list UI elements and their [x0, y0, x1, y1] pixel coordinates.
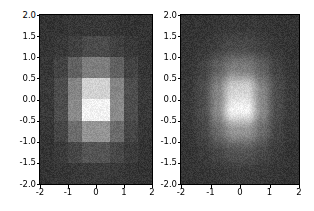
right-ytick-label: 0.0	[145, 95, 177, 104]
right-xtick-label: -2	[171, 188, 191, 197]
right-xtick-mark	[270, 185, 271, 188]
right-ytick-mark	[178, 36, 181, 37]
right-ytick-mark	[178, 57, 181, 58]
right-heatmap-image	[181, 15, 299, 184]
right-xtick-label: 2	[289, 188, 309, 197]
right-ytick-label: 1.0	[145, 53, 177, 62]
right-ytick-mark	[178, 121, 181, 122]
right-ytick-label: -0.5	[145, 116, 177, 125]
right-image-axes[interactable]	[181, 15, 299, 184]
right-ytick-label: 1.5	[145, 32, 177, 41]
right-xtick-mark	[240, 185, 241, 188]
smooth-interpolation-panel: 2.01.51.00.50.0-0.5-1.0-1.5-2.0 -2-1012	[0, 0, 314, 211]
right-ytick-mark	[178, 15, 181, 16]
right-ytick-mark	[178, 163, 181, 164]
right-ytick-mark	[178, 142, 181, 143]
right-xtick-label: 0	[230, 188, 250, 197]
figure-canvas: 2.01.51.00.50.0-0.5-1.0-1.5-2.0 -2-1012 …	[0, 0, 314, 211]
right-ytick-label: 2.0	[145, 11, 177, 20]
right-xtick-label: -1	[201, 188, 221, 197]
right-axes-spine-right	[299, 14, 300, 185]
right-ytick-label: -1.0	[145, 137, 177, 146]
right-xtick-label: 1	[260, 188, 280, 197]
right-xtick-mark	[211, 185, 212, 188]
right-xtick-mark	[299, 185, 300, 188]
right-ytick-mark	[178, 100, 181, 101]
right-ytick-label: 0.5	[145, 74, 177, 83]
right-ytick-mark	[178, 78, 181, 79]
right-xtick-mark	[181, 185, 182, 188]
right-axes-spine-top	[181, 14, 300, 15]
right-ytick-label: -1.5	[145, 158, 177, 167]
